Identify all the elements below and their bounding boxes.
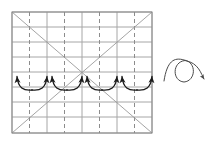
diagram-canvas [0, 0, 211, 143]
diagram-svg [0, 0, 211, 143]
